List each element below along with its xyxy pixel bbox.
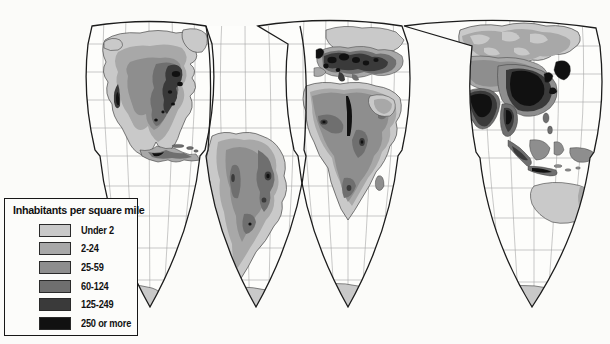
- map-legend: Inhabitants per square mile Under 2 2-24…: [4, 198, 138, 336]
- lobe-europe-africa: [280, 10, 415, 322]
- legend-swatch: [39, 317, 71, 330]
- legend-label: 125-249: [81, 299, 113, 310]
- legend-title: Inhabitants per square mile: [13, 204, 145, 216]
- legend-swatch: [39, 242, 71, 255]
- legend-label: 250 or more: [81, 318, 131, 329]
- legend-label: Under 2: [81, 225, 114, 236]
- legend-row: 125-249: [5, 295, 137, 314]
- legend-swatch: [39, 261, 71, 274]
- legend-swatch: [39, 224, 71, 237]
- legend-items: Under 2 2-24 25-59 60-124 125-249 250 or: [5, 221, 137, 333]
- legend-label: 25-59: [81, 262, 104, 273]
- map-lobes: [80, 10, 610, 322]
- legend-label: 2-24: [81, 243, 99, 254]
- legend-row: Under 2: [5, 221, 137, 240]
- legend-row: 60-124: [5, 277, 137, 296]
- population-density-map-page: Inhabitants per square mile Under 2 2-24…: [0, 0, 610, 344]
- legend-row: 25-59: [5, 258, 137, 277]
- legend-label: 60-124: [81, 281, 109, 292]
- legend-swatch: [39, 280, 71, 293]
- legend-swatch: [39, 298, 71, 311]
- legend-row: 2-24: [5, 240, 137, 259]
- legend-row: 250 or more: [5, 314, 137, 333]
